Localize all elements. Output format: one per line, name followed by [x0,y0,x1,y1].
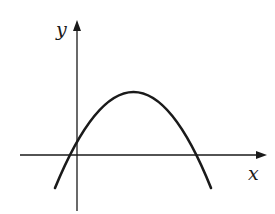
parabola-curve [55,92,211,188]
y-axis-arrow-icon [73,20,81,31]
graph-svg: y x [0,0,275,214]
y-axis-label: y [55,18,67,40]
x-axis-arrow-icon [256,151,267,159]
parabola-diagram: y x [0,0,275,214]
x-axis-label: x [248,162,259,184]
